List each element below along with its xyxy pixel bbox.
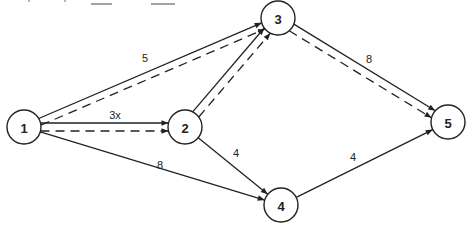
edge-label-1-3: 5 xyxy=(142,52,148,64)
node-1: 1 xyxy=(7,110,41,144)
text-fragment xyxy=(64,0,66,2)
edges xyxy=(39,23,436,200)
edge-1-to-3-dashed xyxy=(41,29,265,125)
node-2: 2 xyxy=(168,110,202,144)
node-label: 1 xyxy=(20,121,27,136)
node-label: 2 xyxy=(181,121,188,136)
edge-4-to-5-solid xyxy=(296,130,433,198)
network-diagram: 53x8484 12345 xyxy=(0,0,467,225)
edge-label-3-5: 8 xyxy=(366,53,372,65)
node-5: 5 xyxy=(431,105,465,139)
node-label: 3 xyxy=(274,12,281,27)
edge-2-to-3-solid xyxy=(193,28,265,112)
clipped-header-fragments xyxy=(28,0,175,4)
node-4: 4 xyxy=(264,188,298,222)
edge-3-to-5-dashed xyxy=(289,31,431,118)
edge-labels: 53x8484 xyxy=(109,52,372,171)
edge-label-4-5: 4 xyxy=(350,151,356,163)
edge-label-2-4: 4 xyxy=(233,147,239,159)
edge-label-1-4: 8 xyxy=(157,159,163,171)
edge-label-1-2: 3x xyxy=(109,109,121,121)
edge-3-to-5-solid xyxy=(294,24,435,111)
text-fragment xyxy=(28,0,30,2)
edge-1-to-4-solid xyxy=(40,132,264,200)
node-3: 3 xyxy=(261,1,295,35)
node-label: 4 xyxy=(277,199,285,214)
node-label: 5 xyxy=(444,116,451,131)
